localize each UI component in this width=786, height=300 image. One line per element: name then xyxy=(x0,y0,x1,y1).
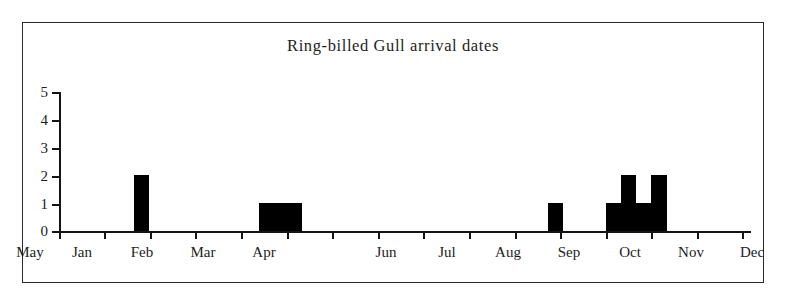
x-tick-5 xyxy=(287,233,289,239)
x-axis-label-apr: Apr xyxy=(234,243,294,261)
x-tick-11 xyxy=(560,233,562,239)
y-axis-label-1: 1 xyxy=(26,197,48,212)
plot-area: 5 4 3 2 1 0 Jan Feb Mar Apr xyxy=(0,0,786,300)
x-axis-label-nov: Nov xyxy=(661,243,721,261)
y-tick-2 xyxy=(52,176,59,178)
x-axis-label-aug: Aug xyxy=(478,243,538,261)
x-axis-label-sep: Sep xyxy=(539,243,599,261)
x-tick-4 xyxy=(241,233,243,239)
x-tick-10 xyxy=(515,233,517,239)
x-axis-label-oct: Oct xyxy=(600,243,660,261)
y-axis-label-5: 5 xyxy=(26,85,48,100)
bar-oct-late xyxy=(621,175,636,204)
x-axis-label-mar: Mar xyxy=(173,243,233,261)
y-axis-label-0: 0 xyxy=(26,224,48,239)
x-tick-3 xyxy=(195,233,197,239)
bar-apr xyxy=(259,203,302,232)
x-axis-label-jul: Jul xyxy=(417,243,477,261)
x-tick-15 xyxy=(742,233,744,239)
y-axis-label-4: 4 xyxy=(26,113,48,128)
x-axis-label-jun: Jun xyxy=(356,243,416,261)
x-tick-2 xyxy=(150,233,152,239)
y-tick-3 xyxy=(52,148,59,150)
x-tick-8 xyxy=(423,233,425,239)
y-axis-label-3: 3 xyxy=(26,141,48,156)
y-axis-line xyxy=(59,92,61,233)
y-tick-0 xyxy=(52,231,59,233)
y-tick-4 xyxy=(52,120,59,122)
bar-sep xyxy=(548,203,563,232)
x-tick-0 xyxy=(59,233,61,239)
x-axis-label-dec: Dec xyxy=(722,243,782,261)
bar-nov-late xyxy=(651,175,667,204)
figure: Ring-billed Gull arrival dates 5 4 3 2 1… xyxy=(0,0,786,300)
x-axis-line xyxy=(59,231,751,233)
x-tick-7 xyxy=(378,233,380,239)
y-tick-1 xyxy=(52,204,59,206)
x-tick-9 xyxy=(469,233,471,239)
x-axis-label-jan: Jan xyxy=(52,243,112,261)
bar-oct-nov-base xyxy=(606,203,667,232)
x-tick-1 xyxy=(104,233,106,239)
x-tick-13 xyxy=(651,233,653,239)
x-tick-14 xyxy=(697,233,699,239)
x-tick-12 xyxy=(606,233,608,239)
x-axis-label-feb: Feb xyxy=(112,243,172,261)
bar-feb xyxy=(134,175,149,232)
x-axis-label-may: May xyxy=(0,243,60,261)
x-tick-6 xyxy=(332,233,334,239)
y-tick-5 xyxy=(52,92,59,94)
y-axis-label-2: 2 xyxy=(26,169,48,184)
